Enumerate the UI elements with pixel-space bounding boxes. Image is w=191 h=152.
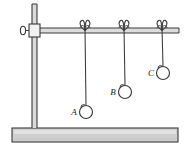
bob-c <box>157 66 170 80</box>
bob-a <box>80 105 93 119</box>
bob-b <box>119 85 132 99</box>
stand-base <box>12 128 178 142</box>
pendulum-a: A <box>70 20 92 118</box>
string-b <box>124 28 125 86</box>
clamp-thumbscrew-knob <box>20 26 29 34</box>
vertical-rod <box>32 4 37 128</box>
bob-label-a: A <box>70 107 77 117</box>
string-a <box>85 28 86 106</box>
apparatus-drawing: A B <box>0 0 191 152</box>
bob-label-b: B <box>110 87 116 97</box>
string-c <box>162 28 163 67</box>
rod-clamp <box>29 24 40 37</box>
horizontal-rod <box>37 28 179 33</box>
pendulum-apparatus-figure: A B <box>0 0 191 152</box>
bob-label-c: C <box>148 68 155 78</box>
